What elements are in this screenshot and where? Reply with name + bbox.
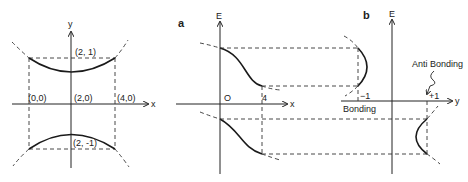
lower-curve	[29, 135, 115, 150]
upper-band-curve	[220, 48, 262, 86]
antibonding-curve-top-ext	[427, 106, 438, 119]
lower-curve-right-ext	[115, 149, 129, 167]
panel-b-y-label: y	[455, 96, 460, 106]
tick-neg-label: −1	[360, 91, 370, 101]
lower-band-left-ext	[200, 112, 220, 119]
lower-band-curve	[220, 119, 262, 154]
point-origin-label: (0,0)	[28, 93, 47, 103]
antibonding-label: Anti Bonding	[412, 59, 463, 69]
upper-band-left-ext	[200, 43, 220, 48]
lower-curve-left-ext	[13, 149, 29, 166]
left-hyperbola-diagram: y x (2, 1) (0,0) (2,0) (4,0) (2, -1)	[12, 19, 156, 168]
bonding-curve	[358, 48, 367, 86]
point-center-label: (2,0)	[74, 93, 93, 103]
panel-a-energy-label: E	[216, 11, 222, 21]
antibonding-curve	[416, 119, 427, 154]
x-axis-label: x	[151, 99, 156, 109]
upper-band-right-ext	[262, 86, 280, 90]
panel-a-label: a	[178, 17, 185, 29]
y-axis-label: y	[68, 19, 73, 29]
panel-b-energy-label: E	[389, 9, 395, 19]
bonding-curve-bottom-ext	[345, 86, 358, 96]
upper-curve-right-ext	[115, 40, 128, 58]
antibonding-curve-bottom-ext	[427, 154, 440, 164]
panel-b: b E y −1 Bonding +1 Anti Bonding	[341, 9, 463, 174]
panel-b-label: b	[363, 9, 370, 21]
panel-a-origin-label: O	[224, 93, 231, 103]
upper-curve-left-ext	[12, 42, 29, 58]
lower-band-right-ext	[262, 154, 280, 160]
point-right-label: (4,0)	[117, 93, 136, 103]
panel-a: a E x O 4	[176, 11, 295, 174]
upper-curve	[29, 58, 115, 72]
point-top-label: (2, 1)	[75, 47, 96, 57]
point-bottom-label: (2, -1)	[73, 138, 97, 148]
tick-pos-label: +1	[429, 91, 439, 101]
bonding-label: Bonding	[343, 104, 376, 114]
bonding-curve-top-ext	[344, 36, 358, 48]
panel-a-tick-label: 4	[262, 93, 267, 103]
diagram-canvas: y x (2, 1) (0,0) (2,0) (4,0) (2, -1) a E…	[0, 0, 468, 182]
panel-a-x-label: x	[290, 99, 295, 109]
